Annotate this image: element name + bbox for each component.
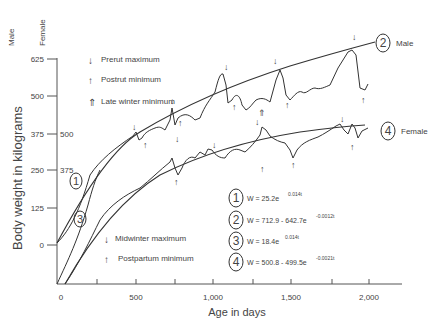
svg-text:500: 500 <box>60 130 74 139</box>
svg-text:↓: ↓ <box>352 32 357 42</box>
svg-text:↓: ↓ <box>224 62 229 72</box>
svg-text:500: 500 <box>129 293 143 302</box>
legend-bottom: ↓ Midwinter maximum ↑ Postpartum minimum <box>104 234 194 265</box>
svg-text:W = 500.8 - 499.5e: W = 500.8 - 499.5e <box>247 259 307 266</box>
svg-text:-0.0012t: -0.0012t <box>316 213 335 219</box>
svg-text:↑: ↑ <box>361 95 366 105</box>
svg-text:↑: ↑ <box>88 75 93 86</box>
svg-text:⇑: ⇑ <box>88 97 96 108</box>
svg-text:↓: ↓ <box>132 122 137 132</box>
svg-text:375: 375 <box>31 130 45 139</box>
y-ticks-female: 500 375 <box>60 130 74 175</box>
svg-text:2: 2 <box>233 213 240 227</box>
svg-text:Postpartum minimum: Postpartum minimum <box>118 254 194 263</box>
svg-text:500: 500 <box>31 92 45 101</box>
curve-label-1: 1 <box>70 173 82 189</box>
svg-text:4: 4 <box>385 124 392 138</box>
svg-text:Prerut maximum: Prerut maximum <box>101 55 160 64</box>
svg-text:250: 250 <box>31 166 45 175</box>
svg-text:↑: ↑ <box>174 177 179 187</box>
equation-4: 4 W = 500.8 - 499.5e -0.0021t <box>229 253 335 271</box>
svg-text:Postrut minimum: Postrut minimum <box>101 75 161 84</box>
svg-text:↑: ↑ <box>291 160 296 170</box>
svg-text:↓: ↓ <box>104 234 109 245</box>
svg-text:↓: ↓ <box>212 140 217 150</box>
svg-text:3: 3 <box>77 213 83 225</box>
svg-text:↓: ↓ <box>88 55 93 66</box>
svg-text:0: 0 <box>40 241 45 250</box>
svg-text:Late winter minimum: Late winter minimum <box>101 97 175 106</box>
x-axis-label: Age in days <box>208 306 266 318</box>
x-tick-labels: 0 500 1,000 1,500 2,000 <box>59 293 380 302</box>
svg-text:↑: ↑ <box>232 102 237 112</box>
svg-text:125: 125 <box>31 204 45 213</box>
svg-text:0: 0 <box>59 293 64 302</box>
svg-text:W = 712.9 - 642.7e: W = 712.9 - 642.7e <box>247 217 307 224</box>
svg-text:↓: ↓ <box>175 134 180 144</box>
svg-text:Female: Female <box>401 127 428 136</box>
svg-text:Male: Male <box>396 39 414 48</box>
equations: 1 W = 25.2e 0.014t 2 W = 712.9 - 642.7e … <box>229 189 335 271</box>
curve-label-4-female: 4 Female <box>381 122 428 140</box>
male-observed-curve <box>90 50 368 175</box>
svg-text:↓: ↓ <box>273 56 278 66</box>
svg-text:1: 1 <box>73 175 79 187</box>
chart: Male Female Body weight in kilograms 625… <box>0 0 444 328</box>
y-ticks-male: 625 500 375 250 125 0 <box>31 55 57 250</box>
legend-top: ↓ Prerut maximum ↑ Postrut minimum ⇑ Lat… <box>88 55 175 108</box>
svg-text:↑: ↑ <box>178 118 183 128</box>
equation-1: 1 W = 25.2e 0.014t <box>229 189 303 207</box>
y-header-male: Male <box>7 28 16 46</box>
svg-text:1,000: 1,000 <box>203 293 224 302</box>
svg-text:↓: ↓ <box>255 117 260 127</box>
svg-text:2: 2 <box>380 36 387 50</box>
svg-text:2,000: 2,000 <box>359 293 380 302</box>
svg-text:375: 375 <box>60 166 74 175</box>
svg-text:-0.0021t: -0.0021t <box>316 255 335 261</box>
equation-2: 2 W = 712.9 - 642.7e -0.0012t <box>229 211 335 229</box>
x-ticks <box>97 279 369 284</box>
y-header-female: Female <box>38 19 47 46</box>
svg-text:↓: ↓ <box>340 114 345 124</box>
equation-3: 3 W = 18.4e 0.014t <box>229 232 300 250</box>
curve-label-2-male: 2 Male <box>376 34 414 52</box>
svg-text:W = 18.4e: W = 18.4e <box>247 238 279 245</box>
svg-text:↑: ↑ <box>260 164 265 174</box>
svg-text:W = 25.2e: W = 25.2e <box>247 195 279 202</box>
svg-text:625: 625 <box>31 55 45 64</box>
svg-text:1,500: 1,500 <box>281 293 302 302</box>
svg-text:↑: ↑ <box>350 142 355 152</box>
svg-text:4: 4 <box>233 255 240 269</box>
event-arrows: ↓ ↑ ↓ ↑ ↓ ↑ ⇑ ↓ ↑ ↓ ↑ ↓ ↑ ↓ ↓ ↑ ↑ ↓ ↑ <box>132 32 366 187</box>
svg-text:↑: ↑ <box>104 254 109 265</box>
svg-text:3: 3 <box>233 234 240 248</box>
y-axis-label: Body weight in kilograms <box>10 106 25 250</box>
svg-text:0.014t: 0.014t <box>285 234 300 240</box>
svg-text:Midwinter maximum: Midwinter maximum <box>115 234 186 243</box>
svg-text:↑: ↑ <box>285 100 290 110</box>
svg-text:0.014t: 0.014t <box>288 191 303 197</box>
svg-text:↑: ↑ <box>143 140 148 150</box>
svg-text:1: 1 <box>233 191 240 205</box>
